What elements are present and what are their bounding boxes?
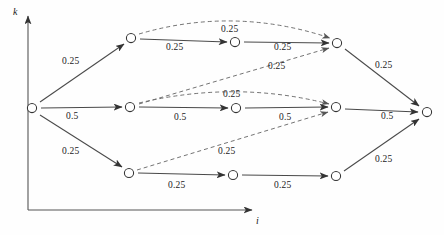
edge-S-B1 xyxy=(40,115,122,167)
edge-M2-M3 xyxy=(245,107,328,108)
edge-label-S-T1: 0.25 xyxy=(62,56,79,66)
edge-label-M1-M2: 0.5 xyxy=(174,112,186,122)
edge-label-B1-B2: 0.25 xyxy=(168,180,185,190)
edge-label-T3-E: 0.25 xyxy=(375,60,392,70)
edge-label-T1-T3-arc: 0.25 xyxy=(221,24,238,34)
node-top-2[interactable] xyxy=(230,37,239,46)
edge-S-M1 xyxy=(41,107,122,108)
edge-label-S-B1: 0.25 xyxy=(62,146,79,156)
edge-label-T2-T3: 0.25 xyxy=(274,42,291,52)
node-top-3[interactable] xyxy=(332,38,341,47)
edge-label-B2-B3: 0.25 xyxy=(274,180,291,190)
node-mid-2[interactable] xyxy=(231,103,240,112)
edge-label-B1-M3: 0.25 xyxy=(218,146,235,156)
node-top-1[interactable] xyxy=(126,33,135,42)
edge-label-M1-M3-arc: 0.25 xyxy=(223,89,240,99)
edge-label-T1-T2: 0.25 xyxy=(166,42,183,52)
i-axis-label: i xyxy=(256,215,259,226)
edge-label-M2-M3: 0.5 xyxy=(279,112,291,122)
edge-label-M3-E: 0.5 xyxy=(381,111,393,121)
edge-label-B3-E: 0.25 xyxy=(375,154,392,164)
node-sink[interactable] xyxy=(422,107,431,116)
edge-S-T1 xyxy=(40,44,124,102)
edge-B2-B3 xyxy=(242,175,328,176)
edge-B1-B2 xyxy=(138,173,225,175)
node-bot-3[interactable] xyxy=(331,171,340,180)
edge-M1-M2 xyxy=(139,107,228,108)
node-mid-1[interactable] xyxy=(125,102,134,111)
node-bot-1[interactable] xyxy=(124,168,133,177)
k-axis-label: k xyxy=(13,6,17,17)
node-source[interactable] xyxy=(27,103,36,112)
figure-canvas: k i 0.25 0.5 0.25 0.25 0.25 0.5 0.5 0.25… xyxy=(0,0,444,235)
edge-T3-E xyxy=(345,49,419,106)
edge-label-M1-T3: 0.25 xyxy=(268,61,285,71)
axis-group xyxy=(28,16,252,210)
edge-B1-M3-dashed xyxy=(137,112,328,170)
node-mid-3[interactable] xyxy=(331,102,340,111)
edge-T1-T2 xyxy=(140,39,227,42)
edge-label-S-M1: 0.5 xyxy=(66,111,78,121)
node-bot-2[interactable] xyxy=(228,170,237,179)
